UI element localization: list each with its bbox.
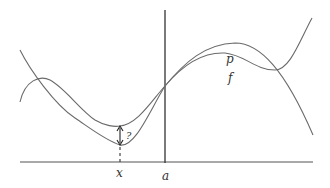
gap-question-label: ?: [126, 130, 132, 141]
label-p: p: [226, 52, 234, 66]
label-x: x: [116, 166, 123, 180]
curve-p: [20, 43, 313, 135]
diagram-svg: ? p f x a: [0, 0, 330, 188]
diagram-canvas: ? p f x a: [0, 0, 330, 188]
curve-f: [20, 18, 312, 145]
label-f: f: [227, 71, 235, 85]
label-a: a: [162, 169, 169, 183]
